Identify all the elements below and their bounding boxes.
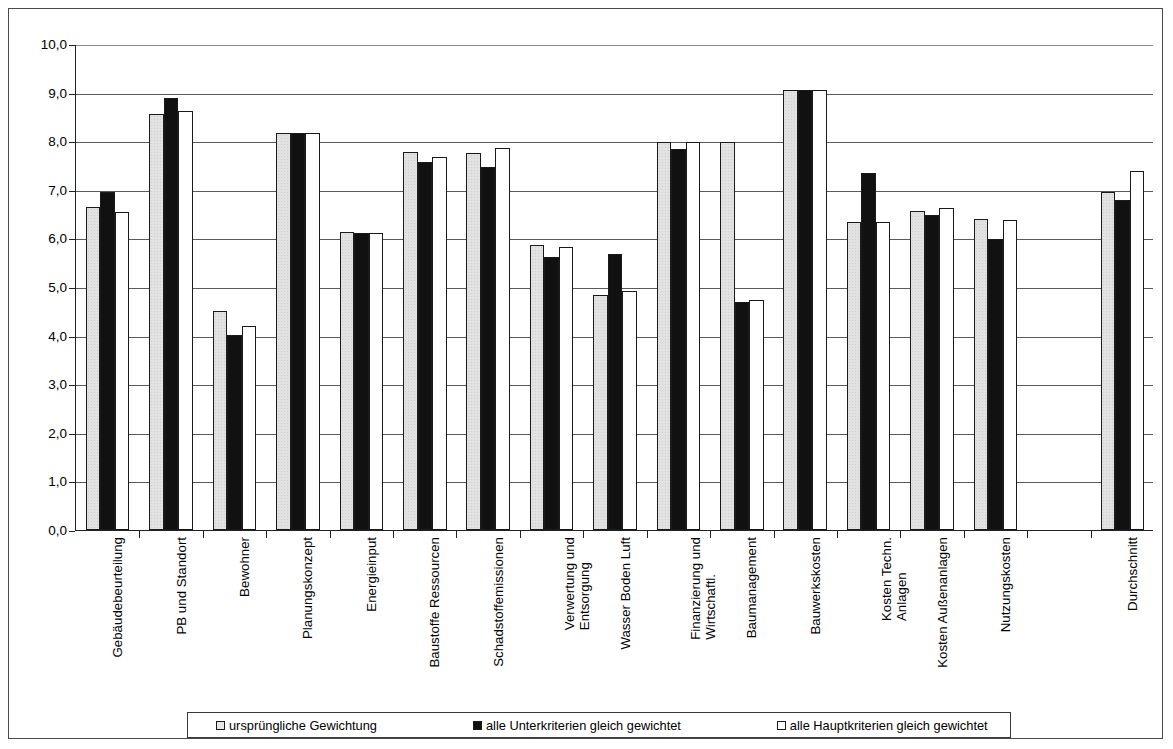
bar <box>686 142 701 530</box>
bar <box>481 167 496 530</box>
bar <box>1130 171 1145 530</box>
x-axis-category-label: Wasser Boden Luft <box>618 537 633 650</box>
x-axis-category-label: Verwertung undEntsorgung <box>562 537 592 630</box>
y-axis-tick-label: 5,0 <box>21 281 67 295</box>
bar <box>1101 192 1116 530</box>
x-axis-category-label: Planungskonzept <box>300 537 315 639</box>
bar <box>544 257 559 530</box>
y-axis-tick-label: 10,0 <box>21 38 67 52</box>
x-axis-category-label: PB und Standort <box>174 537 189 635</box>
y-axis-tick-label: 0,0 <box>21 524 67 538</box>
x-axis-category-label-line: PB und Standort <box>174 537 189 635</box>
x-axis-category-label-line: Kosten Techn. <box>879 537 894 621</box>
x-axis-category-label-line: Baustoffe Ressourcen <box>427 537 442 668</box>
x-axis-category-label-line: Anlagen <box>894 537 909 621</box>
legend-label: alle Hauptkriterien gleich gewichtet <box>790 718 988 733</box>
x-axis-category-label-line: Schadstoffemissionen <box>491 537 506 667</box>
x-axis-category-label: Bewohner <box>237 537 252 597</box>
bar-group <box>964 45 1027 530</box>
bar <box>178 111 193 530</box>
bar <box>164 98 179 530</box>
bar <box>340 232 355 530</box>
bar-group <box>76 45 139 530</box>
x-axis-category-label-line: Verwertung und <box>562 537 577 630</box>
y-axis-tick-label: 2,0 <box>21 427 67 441</box>
x-axis-labels: GebäudebeurteilungPB und StandortBewohne… <box>75 537 1153 695</box>
x-axis-category-label-line: Nutzungskosten <box>998 537 1013 632</box>
x-axis-category-label: Baustoffe Ressourcen <box>427 537 442 668</box>
bar <box>812 90 827 530</box>
bar <box>213 311 228 530</box>
bar-group <box>647 45 710 530</box>
chart-legend: ursprüngliche Gewichtung alle Unterkrite… <box>187 712 1011 738</box>
legend-item-alle-unterkriterien-gleich-gewichtet: alle Unterkriterien gleich gewichtet <box>473 718 681 733</box>
x-axis-category-label-line: Baumanagement <box>744 537 759 638</box>
bar <box>671 149 686 531</box>
bar <box>369 233 384 530</box>
legend-item-alle-hauptkriterien-gleich-gewichtet: alle Hauptkriterien gleich gewichtet <box>777 718 988 733</box>
bar <box>227 335 242 530</box>
x-axis-category-label: Finanzierung undWirtschaftl. <box>688 537 718 640</box>
bar <box>495 148 510 530</box>
bar <box>354 233 369 530</box>
bar <box>115 212 130 530</box>
x-axis-category-label-line: Durchschnitt <box>1125 537 1140 611</box>
x-axis-category-label: Bauwerkskosten <box>808 537 823 635</box>
x-axis-category-label: Baumanagement <box>744 537 759 638</box>
bar <box>783 90 798 530</box>
bar <box>720 142 735 530</box>
bar-group <box>520 45 583 530</box>
x-axis-category-label-line: Energieinput <box>364 537 379 612</box>
legend-swatch-light-grey-square <box>216 721 225 730</box>
bar-group <box>330 45 393 530</box>
x-axis-category-label: Gebäudebeurteilung <box>110 537 125 658</box>
bar <box>559 247 574 530</box>
bar <box>1115 200 1130 530</box>
bar-group <box>1091 45 1154 530</box>
figure-frame: 10,09,08,07,06,05,04,03,02,01,00,0 Gebäu… <box>8 8 1163 739</box>
x-axis-category-label-line: Bewohner <box>237 537 252 597</box>
bar-group <box>393 45 456 530</box>
bar <box>593 295 608 530</box>
bars-layer <box>76 45 1153 530</box>
bar-group <box>203 45 266 530</box>
bar <box>305 133 320 530</box>
bar <box>876 222 891 530</box>
bar <box>608 254 623 530</box>
bar <box>657 142 672 530</box>
x-axis-category-label: Nutzungskosten <box>998 537 1013 632</box>
legend-swatch-black-square <box>473 721 482 730</box>
bar <box>798 90 813 530</box>
bar <box>86 207 101 530</box>
bar <box>861 173 876 530</box>
legend-label: alle Unterkriterien gleich gewichtet <box>486 718 681 733</box>
bar <box>974 219 989 530</box>
y-axis-tick-label: 8,0 <box>21 135 67 149</box>
bar <box>291 133 306 530</box>
x-axis-category-label: Energieinput <box>364 537 379 612</box>
x-axis-category-label: Kosten Techn.Anlagen <box>879 537 909 621</box>
bar <box>466 153 481 530</box>
bar <box>432 157 447 530</box>
x-axis-category-label-line: Gebäudebeurteilung <box>110 537 125 658</box>
x-axis-category-label-line: Bauwerkskosten <box>808 537 823 635</box>
bar <box>242 326 257 530</box>
y-axis-tick-mark <box>69 531 75 532</box>
x-axis-category-label-line: Wasser Boden Luft <box>618 537 633 650</box>
y-axis-tick-label: 3,0 <box>21 378 67 392</box>
bar-group <box>1027 45 1090 530</box>
bar <box>622 291 637 530</box>
x-axis-category-label-line: Entsorgung <box>577 537 592 630</box>
x-axis-category-label-line: Wirtschaftl. <box>703 537 718 640</box>
legend-swatch-white-square <box>777 721 786 730</box>
bar-group <box>583 45 646 530</box>
x-axis-category-label-line: Kosten Außenanlagen <box>935 537 950 668</box>
x-axis-category-label: Schadstoffemissionen <box>491 537 506 667</box>
bar <box>847 222 862 530</box>
bar <box>925 215 940 530</box>
bar <box>749 300 764 530</box>
bar-group <box>774 45 837 530</box>
legend-item-urspruengliche-gewichtung: ursprüngliche Gewichtung <box>216 718 377 733</box>
bar-group <box>139 45 202 530</box>
y-axis-tick-label: 6,0 <box>21 232 67 246</box>
